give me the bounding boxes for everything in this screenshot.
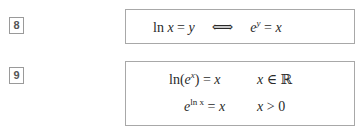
- zero-value: 0: [278, 99, 285, 114]
- condition-real: x ∈ ℝ: [257, 72, 292, 88]
- exponent-y: y: [256, 18, 260, 28]
- ln-of-exp-formula: ln(ex) = x: [169, 72, 221, 89]
- exp-of-ln-formula: eln x = x: [184, 99, 225, 116]
- variable-x: x: [257, 72, 263, 87]
- variable-x: x: [167, 20, 173, 35]
- log-definition-formula: ln x = y ⟺ ey = x: [153, 19, 282, 37]
- exponent-x: x: [191, 70, 195, 80]
- formula-box-8: ln x = y ⟺ ey = x: [125, 9, 355, 44]
- equals-sign: =: [264, 20, 272, 35]
- equation-number-8: 8: [9, 17, 24, 34]
- equals-sign: =: [203, 72, 211, 87]
- close-paren: ): [195, 72, 200, 87]
- variable-x: x: [214, 72, 220, 87]
- real-numbers-symbol: ℝ: [281, 72, 293, 87]
- element-of-symbol: ∈: [267, 72, 277, 87]
- base-e: e: [185, 72, 191, 87]
- equation-number-9: 9: [9, 67, 24, 84]
- variable-x: x: [275, 20, 281, 35]
- variable-y: y: [189, 20, 195, 35]
- variable-x: x: [219, 99, 225, 114]
- greater-than-symbol: >: [267, 99, 275, 114]
- ln-function: ln: [153, 20, 164, 35]
- exponent-ln-x: ln x: [190, 97, 204, 107]
- condition-positive: x > 0: [257, 99, 285, 115]
- formula-box-9: ln(ex) = x x ∈ ℝ eln x = x x > 0: [125, 61, 355, 126]
- equals-sign: =: [207, 99, 215, 114]
- variable-x: x: [257, 99, 263, 114]
- ln-function: ln(: [169, 72, 185, 87]
- iff-arrow-icon: ⟺: [212, 19, 234, 35]
- equals-sign: =: [177, 20, 185, 35]
